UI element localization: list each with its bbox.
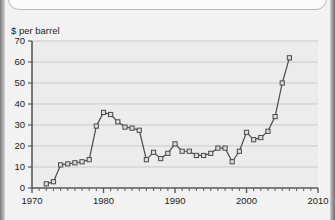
scan-edge-artifact-left (0, 0, 5, 220)
data-point-marker (59, 163, 63, 167)
data-point-marker (244, 130, 248, 134)
data-point-marker (94, 124, 98, 128)
y-axis-tick-label: 30 (14, 119, 25, 130)
data-point-marker (144, 158, 148, 162)
y-axis-tick-label: 0 (20, 182, 25, 193)
y-axis-tick-label: 40 (14, 98, 25, 109)
data-point-marker (166, 151, 170, 155)
y-axis: 010203040506070 (14, 35, 32, 193)
data-point-marker (287, 56, 291, 60)
scan-edge-artifact-right (330, 0, 335, 220)
y-axis-unit-label: $ per barrel (11, 25, 60, 36)
data-point-marker (73, 161, 77, 165)
data-point-marker (173, 142, 177, 146)
y-axis-tick-label: 10 (14, 161, 25, 172)
data-point-marker (151, 150, 155, 154)
data-point-marker (187, 149, 191, 153)
data-point-marker (66, 162, 70, 166)
data-point-marker (159, 157, 163, 161)
data-point-marker (137, 128, 141, 132)
data-point-marker (80, 160, 84, 164)
data-point-marker (130, 126, 134, 130)
data-point-marker (223, 146, 227, 150)
data-point-marker (116, 120, 120, 124)
x-axis-tick-label: 1980 (93, 195, 114, 206)
data-point-marker (123, 125, 127, 129)
y-axis-tick-label: 70 (14, 35, 25, 46)
data-point-marker (237, 149, 241, 153)
data-point-marker (194, 153, 198, 157)
y-axis-tick-label: 50 (14, 77, 25, 88)
chart-page: $ per barrel 010203040506070197019801990… (0, 0, 335, 220)
x-axis-tick-label: 2000 (236, 195, 257, 206)
data-point-marker (51, 180, 55, 184)
data-point-marker (101, 110, 105, 114)
data-point-marker (266, 129, 270, 133)
x-axis-tick-label: 1990 (164, 195, 185, 206)
data-point-marker (87, 158, 91, 162)
y-axis-tick-label: 60 (14, 56, 25, 67)
data-point-marker (273, 115, 277, 119)
data-point-marker (252, 138, 256, 142)
data-point-marker (216, 146, 220, 150)
data-point-marker (280, 81, 284, 85)
data-point-marker (202, 153, 206, 157)
data-point-marker (44, 182, 48, 186)
x-axis-tick-label: 2010 (307, 195, 328, 206)
x-axis: 19701980199020002010 (21, 188, 328, 206)
data-point-marker (180, 149, 184, 153)
data-point-marker (230, 160, 234, 164)
data-point-marker (209, 151, 213, 155)
y-axis-tick-label: 20 (14, 140, 25, 151)
x-axis-tick-label: 1970 (21, 195, 42, 206)
data-point-marker (109, 112, 113, 116)
data-point-marker (259, 136, 263, 140)
